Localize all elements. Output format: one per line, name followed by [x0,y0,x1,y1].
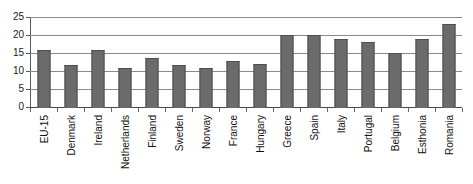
x-axis-tick [192,108,193,112]
x-axis-label: Sweden [174,115,185,183]
bar-slot [138,18,165,108]
x-axis-tick [219,108,220,112]
bar-slot [381,18,408,108]
bar [307,35,320,108]
x-axis-label-text: Belgium [390,115,401,151]
x-axis-label: Norway [201,115,212,183]
x-axis-tick [435,108,436,112]
y-axis-tick [26,89,30,90]
bar [91,50,104,108]
bar [118,68,131,108]
bar-slot [219,18,246,108]
bar-slot [408,18,435,108]
x-axis-tick [138,108,139,112]
bar-slot [273,18,300,108]
x-axis-label: Denmark [66,115,77,183]
bar-slot [354,18,381,108]
x-axis-tick [408,108,409,112]
x-axis-label: Netherlands [120,115,131,183]
x-axis-label: Finland [147,115,158,183]
x-axis-label: Italy [336,115,347,183]
x-axis-tick [165,108,166,112]
x-axis-label-text: Denmark [66,115,77,156]
bars-layer [30,17,462,108]
y-axis-labels: 0510152025 [0,0,24,184]
bar-slot [84,18,111,108]
x-axis-tick [273,108,274,112]
y-axis-tick [26,107,30,108]
y-axis-tick-label: 20 [2,30,24,40]
x-axis-tick [84,108,85,112]
bar-slot [246,18,273,108]
bar [64,65,77,108]
bar [442,24,455,108]
x-axis-label-text: France [228,115,239,146]
x-axis-label-text: Sweden [174,115,185,151]
y-axis-tick [26,17,30,18]
y-axis-tick-label: 0 [2,102,24,112]
x-axis-label-text: Portugal [363,115,374,152]
bar [415,39,428,108]
x-axis-label: EU-15 [39,115,50,183]
bar-slot [192,18,219,108]
x-axis-label-text: Spain [309,115,320,141]
y-axis-tick-label: 5 [2,84,24,94]
bar [361,42,374,108]
y-axis-tick [26,71,30,72]
x-axis-label-text: Finland [147,115,158,148]
bar-chart: 0510152025 EU-15DenmarkIrelandNetherland… [0,0,473,184]
bar-slot [30,18,57,108]
x-axis-label: Greece [282,115,293,183]
x-axis-label-text: Esthonia [417,115,428,154]
x-axis-label: Ireland [93,115,104,183]
bar [334,39,347,108]
x-axis-label-text: Ireland [93,115,104,146]
x-axis-label: France [228,115,239,183]
x-axis-label: Hungary [255,115,266,183]
x-axis-label: Belgium [390,115,401,183]
y-axis-tick-label: 25 [2,12,24,22]
y-axis-tick [26,35,30,36]
bar [172,65,185,108]
x-axis-tick [111,108,112,112]
x-axis-tick [327,108,328,112]
x-axis-label: Portugal [363,115,374,183]
bar [145,58,158,108]
bar [199,68,212,108]
y-axis-tick [26,53,30,54]
x-axis-labels: EU-15DenmarkIrelandNetherlandsFinlandSwe… [30,113,462,183]
x-axis-tick [57,108,58,112]
x-axis-label-text: Norway [201,115,212,149]
x-axis-tick [381,108,382,112]
x-axis-tick [30,108,31,112]
x-axis-label-text: Greece [282,115,293,148]
bar [37,50,50,108]
bar [253,64,266,108]
x-axis-label-text: Hungary [255,115,266,153]
x-axis-label: Spain [309,115,320,183]
bar-slot [111,18,138,108]
x-axis-tick [246,108,247,112]
x-axis-label-text: Romania [444,115,455,155]
x-axis-label: Esthonia [417,115,428,183]
x-axis-label: Romania [444,115,455,183]
x-axis-label-text: Netherlands [120,115,131,169]
bar [388,53,401,108]
bar-slot [165,18,192,108]
bar-slot [57,18,84,108]
x-axis-label-text: EU-15 [39,115,50,143]
bar-slot [327,18,354,108]
bar-slot [300,18,327,108]
x-axis-tick [462,108,463,112]
x-axis-tick [300,108,301,112]
y-axis-tick-label: 15 [2,48,24,58]
bar [226,61,239,108]
x-axis-label-text: Italy [336,115,347,133]
bar-slot [435,18,462,108]
x-axis-tick [354,108,355,112]
y-axis-tick-label: 10 [2,66,24,76]
bar [280,35,293,108]
